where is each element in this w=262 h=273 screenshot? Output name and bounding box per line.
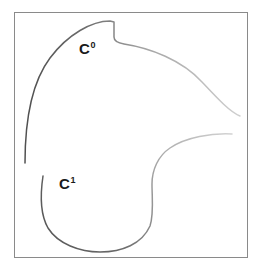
curve-c0-path	[25, 21, 240, 163]
figure-container: C0 C1	[0, 0, 262, 273]
curve-label-c0: C0	[79, 41, 96, 56]
curve-c1-path	[41, 134, 232, 252]
curve-label-c1-superscript: 1	[71, 175, 76, 185]
curve-label-c0-superscript: 0	[91, 40, 96, 50]
curve-canvas	[0, 0, 262, 273]
curve-label-c1: C1	[59, 176, 76, 191]
curve-label-c0-base: C	[79, 40, 90, 57]
curve-label-c1-base: C	[59, 175, 70, 192]
